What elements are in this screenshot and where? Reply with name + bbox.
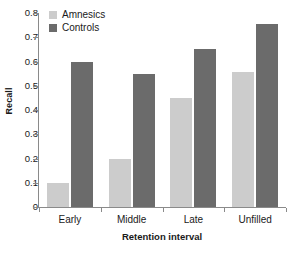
y-tick-mark (33, 62, 38, 63)
bar-controls-late (194, 49, 216, 207)
bar-amnesics-early (47, 183, 69, 207)
x-tick-mark (224, 208, 225, 212)
legend-swatch-amnesics (49, 11, 57, 19)
bar-controls-early (71, 62, 93, 208)
x-tick-mark (39, 208, 40, 212)
bar-amnesics-unfilled (232, 72, 254, 207)
bar-controls-middle (133, 74, 155, 207)
legend-label: Amnesics (62, 9, 105, 20)
bar-amnesics-middle (109, 159, 131, 208)
recall-bar-chart: Recall 0.80.70.60.50.40.30.20.10 EarlyMi… (0, 0, 293, 253)
legend-entry-amnesics: Amnesics (49, 9, 105, 20)
y-tick-mark (33, 159, 38, 160)
y-tick-mark (33, 37, 38, 38)
legend-entry-controls: Controls (49, 22, 105, 33)
chart-legend: AmnesicsControls (49, 9, 105, 35)
legend-label: Controls (62, 22, 99, 33)
x-tick-label-unfilled: Unfilled (215, 214, 293, 225)
y-tick-mark (33, 86, 38, 87)
x-tick-mark (101, 208, 102, 212)
bar-amnesics-late (170, 98, 192, 207)
x-axis-title: Retention interval (38, 231, 286, 242)
y-tick-mark (33, 110, 38, 111)
plot-area (39, 13, 286, 207)
y-tick-mark (33, 183, 38, 184)
x-tick-mark (163, 208, 164, 212)
y-tick-mark (33, 13, 38, 14)
y-tick-mark (33, 134, 38, 135)
bar-controls-unfilled (256, 24, 278, 207)
x-tick-mark (286, 208, 287, 212)
legend-swatch-controls (49, 24, 57, 32)
